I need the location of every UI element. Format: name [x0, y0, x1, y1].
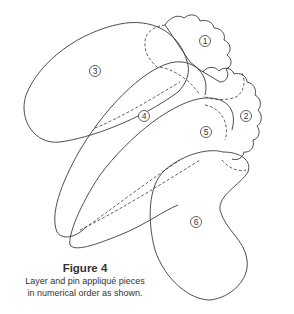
- label-3: 3: [90, 66, 101, 77]
- svg-text:4: 4: [142, 111, 147, 121]
- figure-caption-line-1: Layer and pin appliqué pieces: [0, 276, 170, 287]
- label-1: 1: [200, 36, 211, 47]
- piece-1: [145, 15, 231, 82]
- figure-title: Figure 4: [0, 262, 170, 274]
- piece-2: [203, 67, 261, 159]
- piece-5: [70, 98, 234, 248]
- svg-text:6: 6: [194, 217, 199, 227]
- label-6: 6: [191, 217, 202, 228]
- label-2: 2: [241, 111, 252, 122]
- svg-text:5: 5: [204, 127, 209, 137]
- label-5: 5: [201, 127, 212, 138]
- piece-3: [24, 23, 188, 143]
- piece-4: [55, 62, 206, 237]
- svg-text:3: 3: [93, 66, 98, 76]
- svg-text:2: 2: [244, 111, 249, 121]
- figure-caption-line-2: in numerical order as shown.: [0, 288, 170, 299]
- svg-text:1: 1: [203, 36, 208, 46]
- label-4: 4: [139, 111, 150, 122]
